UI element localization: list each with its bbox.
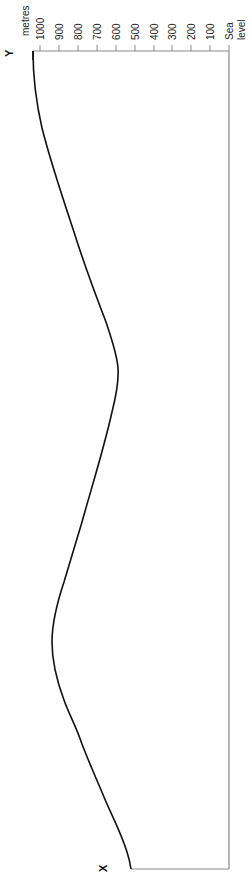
tick-600: 600 [111,23,122,40]
sea-level-label-2: level [236,19,247,40]
cross-section-chart: metres 1000 900 800 700 600 500 400 300 … [0,0,251,874]
unit-label: metres [20,5,31,36]
tick-900: 900 [54,23,65,40]
sea-level-label: Sea [224,22,235,40]
elevation-ticks [40,45,229,51]
profile-curve [33,51,131,869]
tick-700: 700 [92,23,103,40]
tick-400: 400 [149,23,160,40]
start-label-x: X [97,864,109,872]
tick-500: 500 [130,23,141,40]
tick-300: 300 [167,23,178,40]
elevation-tick-labels: metres 1000 900 800 700 600 500 400 300 … [20,5,247,40]
tick-100: 100 [205,23,216,40]
tick-200: 200 [186,23,197,40]
tick-1000: 1000 [35,17,46,40]
end-label-y: Y [3,49,15,57]
tick-800: 800 [73,23,84,40]
